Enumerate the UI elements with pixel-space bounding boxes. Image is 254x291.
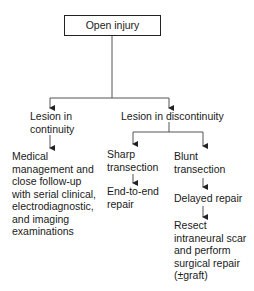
text-line: electrodiagnostic, [12,200,96,213]
text: Delayed repair [174,192,242,204]
root-label: Open injury [86,19,140,31]
text-line: and perform [174,244,246,257]
node-sharp-transection: Sharp transection [107,148,158,173]
root-node-open-injury: Open injury [64,15,161,36]
text-line: Medical [12,150,96,163]
label-line: Sharp [107,148,158,161]
node-delayed-repair: Delayed repair [174,192,242,205]
text-line: surgical repair [174,257,246,270]
label-line: Blunt [174,150,225,163]
label: Lesion in discontinuity [121,110,224,122]
node-lesion-in-continuity: Lesion in continuity [30,110,72,135]
node-medical-management: Medical management and close follow-up w… [12,150,96,238]
text-line: intraneural scar [174,232,246,245]
text-line: End-to-end [107,185,159,198]
text-line: (±graft) [174,269,246,282]
text-line: repair [107,198,159,211]
label-line: continuity [30,123,72,136]
label-line: transection [174,163,225,176]
node-resect-scar: Resect intraneural scar and perform surg… [174,219,246,282]
node-blunt-transection: Blunt transection [174,150,225,175]
label-line: Lesion in [30,110,72,123]
text-line: Resect [174,219,246,232]
text-line: management and [12,163,96,176]
text-line: with serial clinical, [12,188,96,201]
text-line: and imaging [12,213,96,226]
node-end-to-end-repair: End-to-end repair [107,185,159,210]
text-line: examinations [12,225,96,238]
node-lesion-in-discontinuity: Lesion in discontinuity [121,110,224,123]
label-line: transection [107,161,158,174]
text-line: close follow-up [12,175,96,188]
